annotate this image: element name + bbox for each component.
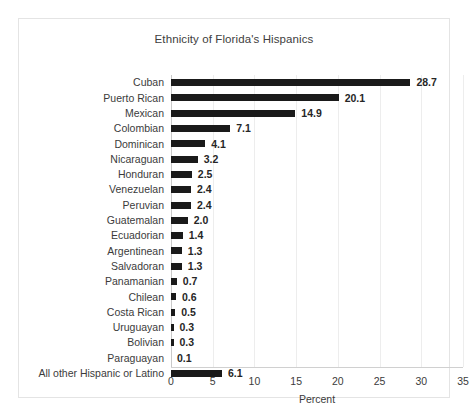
bar[interactable] (171, 232, 183, 239)
bar-row: Honduran2.5 (19, 167, 474, 182)
bar-value-label: 1.4 (189, 230, 204, 241)
bar-row: Dominican4.1 (19, 136, 474, 151)
category-label: Chilean (19, 292, 171, 303)
category-label: Panamanian (19, 276, 171, 287)
bar-row: Nicaraguan3.2 (19, 151, 474, 166)
bar[interactable] (171, 94, 339, 101)
bar-value-label: 0.7 (183, 276, 198, 287)
bar-value-label: 2.5 (198, 169, 213, 180)
bar-row: Cuban28.7 (19, 75, 474, 90)
bar-row: Bolivian0.3 (19, 335, 474, 350)
bar-container: 20.1 (171, 90, 474, 105)
bar-row: Colombian7.1 (19, 121, 474, 136)
category-label: Costa Rican (19, 307, 171, 318)
bar-value-label: 1.3 (188, 261, 203, 272)
bar-container: 1.4 (171, 228, 474, 243)
bar-value-label: 0.6 (182, 292, 197, 303)
category-label: Guatemalan (19, 215, 171, 226)
category-label: Colombian (19, 123, 171, 134)
bar[interactable] (171, 263, 182, 270)
bar-row: Mexican14.9 (19, 106, 474, 121)
bar[interactable] (171, 309, 175, 316)
bar-value-label: 2.4 (197, 184, 212, 195)
category-label: Puerto Rican (19, 93, 171, 104)
bar-row: Uruguayan0.3 (19, 320, 474, 335)
bar-container: 4.1 (171, 136, 474, 151)
bar-container: 3.2 (171, 151, 474, 166)
bar-container: 1.3 (171, 243, 474, 258)
category-label: Honduran (19, 169, 171, 180)
bar-value-label: 0.3 (180, 337, 195, 348)
bar-container: 0.5 (171, 304, 474, 319)
category-label: Peruvian (19, 200, 171, 211)
x-axis-title: Percent (171, 393, 463, 405)
category-label: Mexican (19, 108, 171, 119)
category-label: Uruguayan (19, 322, 171, 333)
bar-value-label: 2.4 (197, 200, 212, 211)
x-tick-label: 15 (290, 375, 302, 387)
bar-value-label: 3.2 (204, 154, 219, 165)
bar-value-label: 28.7 (416, 77, 436, 88)
bar-row: Ecuadorian1.4 (19, 228, 474, 243)
x-axis-tick-labels: 05101520253035 (171, 375, 463, 389)
category-label: Argentinean (19, 246, 171, 257)
category-label: Cuban (19, 77, 171, 88)
bar-value-label: 1.3 (188, 246, 203, 257)
bar-container: 0.1 (171, 350, 474, 365)
bar-row: Costa Rican0.5 (19, 304, 474, 319)
bar-value-label: 0.1 (177, 353, 192, 364)
x-tick-label: 5 (210, 375, 216, 387)
bar-rows: Cuban28.7Puerto Rican20.1Mexican14.9Colo… (19, 75, 474, 381)
chart-frame: Ethnicity of Florida's Hispanics Cuban28… (18, 18, 450, 398)
bar[interactable] (171, 125, 230, 132)
bar-value-label: 7.1 (236, 123, 251, 134)
bar-container: 0.6 (171, 289, 474, 304)
bar-container: 2.4 (171, 197, 474, 212)
bar[interactable] (171, 202, 191, 209)
bar-value-label: 0.3 (180, 322, 195, 333)
bar[interactable] (171, 217, 188, 224)
bar-row: Peruvian2.4 (19, 197, 474, 212)
bar-row: Panamanian0.7 (19, 274, 474, 289)
bar-container: 0.3 (171, 320, 474, 335)
x-tick-label: 0 (168, 375, 174, 387)
chart-title: Ethnicity of Florida's Hispanics (19, 33, 449, 45)
bar-container: 0.3 (171, 335, 474, 350)
category-label: Paraguayan (19, 353, 171, 364)
bar-row: Paraguayan0.1 (19, 350, 474, 365)
x-tick-label: 35 (457, 375, 469, 387)
category-label: Dominican (19, 139, 171, 150)
x-tick-label: 10 (249, 375, 261, 387)
category-label: Salvadoran (19, 261, 171, 272)
x-tick-label: 25 (374, 375, 386, 387)
bar-container: 7.1 (171, 121, 474, 136)
bar-container: 2.4 (171, 182, 474, 197)
category-label: Ecuadorian (19, 230, 171, 241)
bar[interactable] (171, 324, 174, 331)
category-label: Bolivian (19, 337, 171, 348)
bar-row: Salvadoran1.3 (19, 259, 474, 274)
bar-row: Venezuelan2.4 (19, 182, 474, 197)
bar-value-label: 20.1 (345, 93, 365, 104)
bar[interactable] (171, 278, 177, 285)
bar[interactable] (171, 186, 191, 193)
bar[interactable] (171, 140, 205, 147)
bar[interactable] (171, 156, 198, 163)
bar[interactable] (171, 247, 182, 254)
bar-value-label: 14.9 (301, 108, 321, 119)
bar-container: 2.5 (171, 167, 474, 182)
bar-value-label: 4.1 (211, 139, 226, 150)
bar[interactable] (171, 79, 410, 86)
bar[interactable] (171, 171, 192, 178)
category-label: All other Hispanic or Latino (19, 368, 171, 379)
bar[interactable] (171, 110, 295, 117)
bar-row: Puerto Rican20.1 (19, 90, 474, 105)
x-tick-label: 30 (415, 375, 427, 387)
bar-container: 14.9 (171, 106, 474, 121)
bar[interactable] (171, 293, 176, 300)
bar-row: Argentinean1.3 (19, 243, 474, 258)
bar-row: Chilean0.6 (19, 289, 474, 304)
bar[interactable] (171, 339, 174, 346)
category-label: Venezuelan (19, 184, 171, 195)
bar-container: 28.7 (171, 75, 474, 90)
